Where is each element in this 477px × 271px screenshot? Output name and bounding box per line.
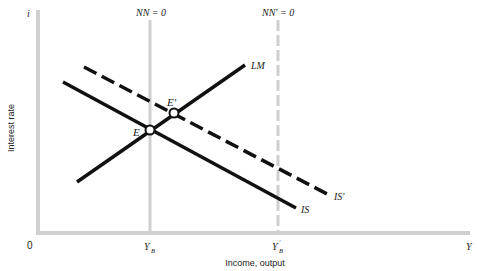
x-axis-symbol: Y	[466, 241, 473, 252]
is-curve	[63, 82, 296, 208]
lm-label: LM	[250, 60, 266, 71]
point-label-e-prime: E′	[166, 96, 177, 108]
x-tick-yb-prime-mark: ′	[279, 238, 281, 245]
is-prime-curve	[84, 67, 329, 195]
is-lm-diagram: E E′ LM IS IS′ NN = 0 NN′ = 0 i Y 0 Y B …	[0, 0, 477, 271]
y-axis-title: Interest rate	[6, 104, 16, 152]
x-tick-yb-sub: B	[151, 247, 155, 254]
is-label: IS	[300, 204, 309, 215]
x-tick-yb: Y B	[144, 241, 155, 254]
is-prime-label: IS′	[333, 191, 345, 202]
y-axis-symbol: i	[27, 8, 30, 19]
lm-curve	[77, 65, 245, 182]
x-axis-title: Income, output	[225, 258, 285, 268]
equilibrium-point-e	[146, 126, 155, 135]
nn-zero-label: NN = 0	[135, 7, 166, 18]
origin-label: 0	[27, 240, 33, 251]
nn-prime-zero-label: NN′ = 0	[261, 7, 294, 18]
x-tick-yb-prime-sub: B	[279, 247, 283, 254]
point-label-e: E	[132, 126, 140, 138]
x-tick-yb-main: Y	[144, 241, 151, 252]
x-tick-yb-prime-main: Y	[272, 241, 279, 252]
equilibrium-point-e-prime	[170, 109, 179, 118]
x-tick-yb-prime: Y ′ B	[272, 238, 283, 254]
